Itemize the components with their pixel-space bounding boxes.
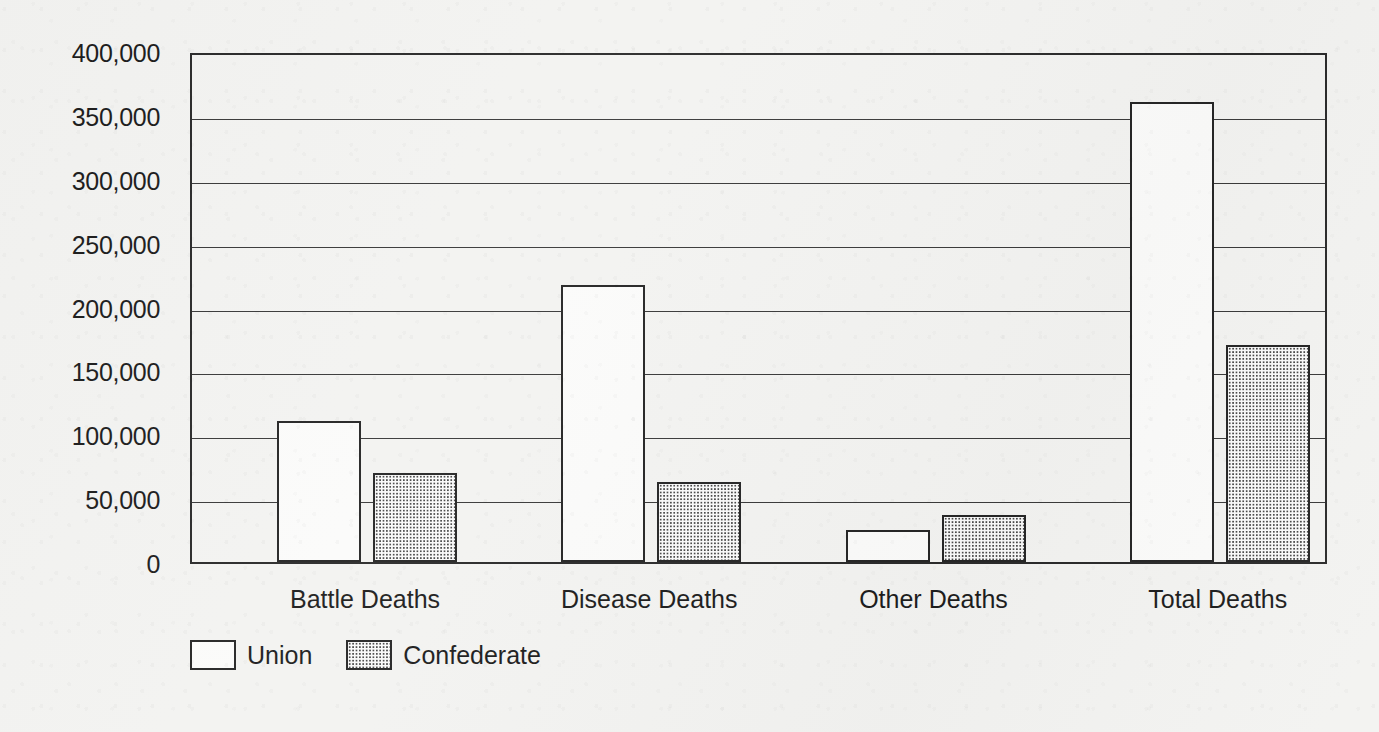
- bar-union-disease-deaths: [561, 285, 645, 562]
- x-tick-label: Disease Deaths: [561, 585, 737, 614]
- bar-union-other-deaths: [846, 530, 930, 562]
- y-tick-label: 150,000: [72, 360, 160, 385]
- bar-confederate-other-deaths: [942, 515, 1026, 562]
- y-tick-label: 100,000: [72, 424, 160, 449]
- legend-swatch-confederate: [346, 640, 392, 670]
- y-tick-label: 0: [146, 552, 160, 577]
- legend-entry-union: Union: [190, 640, 312, 670]
- plot-area: [190, 53, 1327, 564]
- y-tick-label: 200,000: [72, 296, 160, 321]
- y-tick-label: 50,000: [85, 488, 160, 513]
- bar-confederate-total-deaths: [1226, 345, 1310, 562]
- x-tick-label: Other Deaths: [859, 585, 1008, 614]
- chart-legend: UnionConfederate: [190, 640, 541, 670]
- legend-entry-confederate: Confederate: [346, 640, 541, 670]
- bar-union-battle-deaths: [277, 421, 361, 562]
- legend-label-confederate: Confederate: [403, 641, 541, 670]
- x-tick-label: Battle Deaths: [290, 585, 440, 614]
- y-tick-label: 250,000: [72, 232, 160, 257]
- x-tick-label: Total Deaths: [1148, 585, 1287, 614]
- y-tick-label: 300,000: [72, 168, 160, 193]
- y-tick-label: 400,000: [72, 41, 160, 66]
- bar-confederate-battle-deaths: [373, 473, 457, 562]
- bar-union-total-deaths: [1130, 102, 1214, 562]
- civil-war-deaths-bar-chart: 050,000100,000150,000200,000250,000300,0…: [0, 0, 1379, 732]
- legend-swatch-union: [190, 640, 236, 670]
- y-tick-label: 350,000: [72, 104, 160, 129]
- legend-label-union: Union: [247, 641, 312, 670]
- bar-confederate-disease-deaths: [657, 482, 741, 562]
